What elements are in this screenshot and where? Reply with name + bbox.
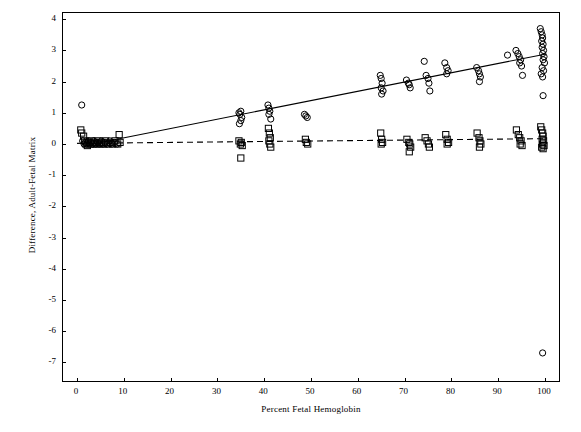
- data-point-square: [378, 130, 384, 136]
- x-axis-tick: [358, 378, 359, 382]
- y-axis-tick: [62, 362, 66, 363]
- y-axis-tick: [62, 175, 66, 176]
- y-axis-tick-label: -6: [30, 325, 56, 335]
- x-axis-tick-label: 80: [435, 386, 465, 396]
- y-axis-tick: [62, 50, 66, 51]
- data-point-circle: [79, 102, 85, 108]
- data-point-square: [238, 155, 244, 161]
- x-axis-tick: [264, 378, 265, 382]
- y-axis-tick: [62, 300, 66, 301]
- x-axis-tick: [311, 378, 312, 382]
- data-point-square: [513, 127, 519, 133]
- y-axis-tick: [62, 113, 66, 114]
- data-point-circle: [421, 58, 427, 64]
- data-layer: [63, 13, 559, 381]
- x-axis-label: Percent Fetal Hemoglobin: [62, 404, 560, 414]
- y-axis-tick: [62, 19, 66, 20]
- x-axis-tick-label: 0: [61, 386, 91, 396]
- y-axis-tick: [62, 82, 66, 83]
- plot-area: [63, 13, 559, 381]
- x-axis-tick-label: 70: [389, 386, 419, 396]
- x-axis-tick-label: 100: [529, 386, 559, 396]
- y-axis-tick: [62, 238, 66, 239]
- data-point-circle: [540, 93, 546, 99]
- x-axis-tick-label: 30: [201, 386, 231, 396]
- y-axis-label: Difference, Adult-Fetal Matrix: [27, 85, 37, 305]
- y-axis-tick: [62, 206, 66, 207]
- y-axis-tick: [62, 331, 66, 332]
- data-point-circle: [427, 88, 433, 94]
- x-axis-tick: [124, 378, 125, 382]
- data-point-square: [474, 130, 480, 136]
- y-axis-tick-label: -7: [30, 356, 56, 366]
- scatter-plot-figure: 0102030405060708090100 43210-1-2-3-4-5-6…: [0, 0, 581, 432]
- x-axis-tick-label: 90: [482, 386, 512, 396]
- data-point-circle: [303, 113, 309, 119]
- x-axis-tick: [77, 378, 78, 382]
- data-point-circle: [540, 350, 546, 356]
- x-axis-tick: [498, 378, 499, 382]
- x-axis-tick: [451, 378, 452, 382]
- y-axis-tick-label: 4: [30, 13, 56, 23]
- data-point-square: [116, 132, 122, 138]
- y-axis-tick: [62, 269, 66, 270]
- x-axis-tick: [171, 378, 172, 382]
- x-axis-tick: [405, 378, 406, 382]
- x-axis-tick-label: 20: [155, 386, 185, 396]
- x-axis-tick-label: 60: [342, 386, 372, 396]
- x-axis-tick-label: 40: [248, 386, 278, 396]
- data-point-circle: [504, 52, 510, 58]
- x-axis-tick-label: 50: [295, 386, 325, 396]
- x-axis-tick: [545, 378, 546, 382]
- x-axis-tick-label: 10: [108, 386, 138, 396]
- x-axis-tick: [217, 378, 218, 382]
- plot-frame: [62, 12, 560, 382]
- y-axis-tick-label: 3: [30, 44, 56, 54]
- data-point-circle: [519, 72, 525, 78]
- y-axis-tick: [62, 144, 66, 145]
